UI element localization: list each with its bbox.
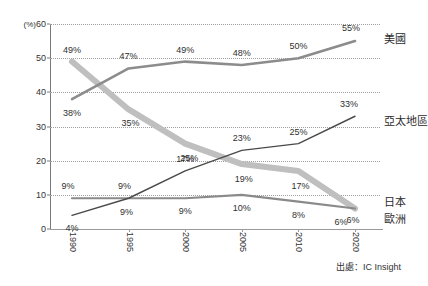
- source-note: 出處：IC Insight: [336, 260, 401, 273]
- data-point-label: 47%: [120, 52, 138, 61]
- series-name-label: 日本: [384, 197, 406, 208]
- data-point-label: 17%: [176, 154, 194, 163]
- series-name-label: 亞太地區: [384, 116, 428, 127]
- data-point-label: 49%: [63, 45, 81, 54]
- data-point-label: 38%: [63, 109, 81, 118]
- series-name-label: 歐洲: [384, 214, 406, 225]
- data-point-label: 35%: [122, 119, 140, 128]
- data-point-label: 33%: [340, 100, 358, 109]
- data-point-label: 49%: [176, 45, 194, 54]
- data-point-label: 9%: [118, 182, 131, 191]
- data-point-label: 6%: [334, 217, 347, 226]
- series-line: [72, 195, 355, 209]
- series-name-label: 美國: [384, 34, 406, 45]
- data-point-label: 10%: [233, 203, 251, 212]
- data-point-label: 23%: [233, 134, 251, 143]
- data-point-label: 48%: [233, 49, 251, 58]
- data-point-label: 9%: [120, 208, 133, 217]
- data-point-label: 19%: [235, 175, 253, 184]
- series-line: [72, 116, 355, 215]
- data-point-label: 9%: [179, 207, 192, 216]
- data-point-label: 55%: [342, 24, 360, 33]
- data-point-label: 17%: [291, 181, 309, 190]
- data-point-label: 9%: [61, 182, 74, 191]
- data-point-label: 8%: [292, 210, 305, 219]
- data-point-label: 50%: [289, 42, 307, 51]
- series-line: [72, 41, 355, 99]
- series-line: [72, 62, 355, 209]
- data-point-label: 25%: [289, 127, 307, 136]
- data-point-label: 6%: [346, 215, 359, 224]
- data-point-label: 4%: [65, 224, 78, 233]
